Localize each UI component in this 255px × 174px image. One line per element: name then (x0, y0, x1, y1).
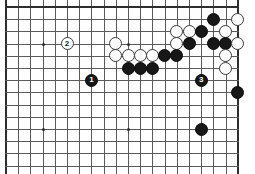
grid-line-horizontal (5, 92, 239, 93)
move-stone-3: 3 (195, 74, 208, 87)
grid-line-vertical (165, 0, 166, 174)
grid-line-vertical (213, 0, 214, 174)
black-stone (195, 25, 208, 38)
grid-line-vertical (18, 0, 19, 174)
black-stone (134, 62, 147, 75)
black-stone (207, 37, 220, 50)
grid-line-horizontal (5, 141, 239, 142)
white-stone (219, 25, 232, 38)
white-stone (122, 49, 135, 62)
grid-line-vertical (116, 0, 117, 174)
black-stone (146, 62, 159, 75)
black-stone (195, 123, 208, 136)
white-stone (134, 49, 147, 62)
star-point (127, 43, 130, 46)
black-stone (231, 86, 244, 99)
goban-grid: 213 (0, 0, 255, 174)
move-stone-2: 2 (61, 37, 74, 50)
star-point (42, 128, 45, 131)
white-stone (219, 49, 232, 62)
grid-line-vertical (152, 0, 153, 174)
board-edge-line-vertical (5, 0, 7, 174)
white-stone (183, 25, 196, 38)
go-board-diagram: 213 (0, 0, 255, 174)
black-stone (158, 49, 171, 62)
star-point (42, 43, 45, 46)
grid-line-vertical (67, 0, 68, 174)
white-stone (170, 25, 183, 38)
stone-move-number: 3 (199, 76, 203, 84)
black-stone (122, 62, 135, 75)
grid-line-horizontal (5, 153, 239, 154)
star-point (127, 128, 130, 131)
black-stone (170, 49, 183, 62)
grid-line-vertical (104, 0, 105, 174)
stone-move-number: 1 (89, 76, 93, 84)
grid-line-vertical (55, 0, 56, 174)
black-stone (207, 13, 220, 26)
board-edge-line-horizontal (5, 6, 239, 8)
move-stone-1: 1 (85, 74, 98, 87)
grid-line-horizontal (5, 166, 239, 167)
white-stone (170, 37, 183, 50)
grid-line-horizontal (5, 19, 239, 20)
grid-line-horizontal (5, 105, 239, 106)
grid-line-horizontal (5, 117, 239, 118)
grid-line-vertical (43, 0, 44, 174)
black-stone (183, 37, 196, 50)
grid-line-vertical (140, 0, 141, 174)
grid-line-vertical (30, 0, 31, 174)
white-stone (219, 62, 232, 75)
white-stone (146, 49, 159, 62)
white-stone (231, 37, 244, 50)
stone-move-number: 2 (65, 40, 69, 48)
grid-line-vertical (79, 0, 80, 174)
black-stone (219, 37, 232, 50)
white-stone (231, 13, 244, 26)
grid-line-vertical (128, 0, 129, 174)
grid-line-vertical (91, 0, 92, 174)
white-stone (109, 37, 122, 50)
white-stone (109, 49, 122, 62)
